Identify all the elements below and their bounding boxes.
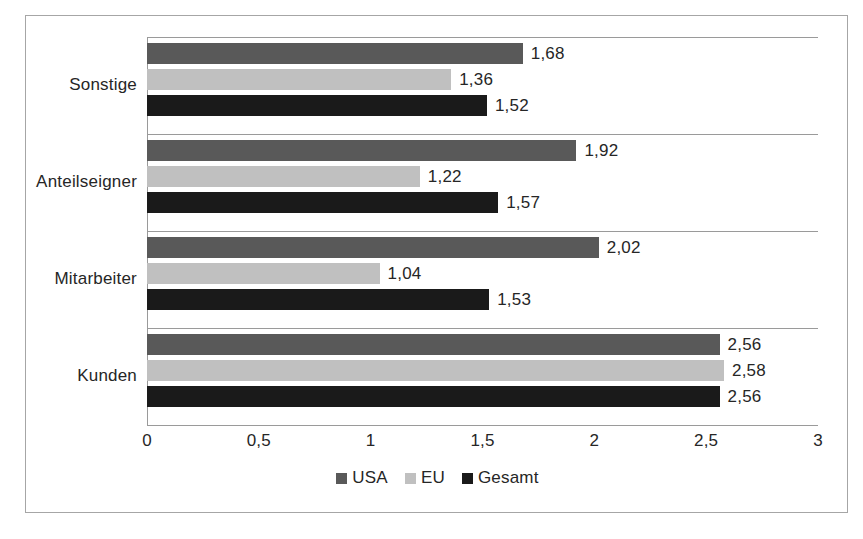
category-axis-labels: SonstigeAnteilseignerMitarbeiterKunden bbox=[26, 37, 137, 425]
bar-row: 2,02 bbox=[147, 237, 818, 258]
bar-row: 1,68 bbox=[147, 43, 818, 64]
bar-value-label: 2,02 bbox=[607, 238, 641, 258]
bar-value-label: 2,56 bbox=[728, 387, 762, 407]
value-axis-tick-labels: 00,511,522,53 bbox=[147, 431, 818, 457]
x-tick-label: 0 bbox=[142, 431, 152, 451]
group-separator-line bbox=[147, 425, 818, 426]
category-label-mitarbeiter: Mitarbeiter bbox=[54, 269, 137, 289]
plot-area: 1,681,361,521,921,221,572,021,041,532,56… bbox=[147, 37, 818, 425]
bar-value-label: 1,57 bbox=[506, 193, 540, 213]
group-separator-line bbox=[147, 231, 818, 232]
chart-frame: SonstigeAnteilseignerMitarbeiterKunden 1… bbox=[25, 15, 848, 513]
bar-row: 1,36 bbox=[147, 69, 818, 90]
chart-legend: USAEUGesamt bbox=[26, 468, 849, 488]
x-tick-label: 1,5 bbox=[470, 431, 494, 451]
legend-swatch-icon bbox=[405, 473, 416, 484]
legend-swatch-icon bbox=[462, 473, 473, 484]
x-tick-label: 0,5 bbox=[247, 431, 271, 451]
group-separator-line bbox=[147, 328, 818, 329]
bar-value-label: 1,53 bbox=[497, 290, 531, 310]
bar-row: 2,56 bbox=[147, 386, 818, 407]
bar-value-label: 1,92 bbox=[584, 141, 618, 161]
legend-label: EU bbox=[421, 468, 445, 488]
bar-row: 1,04 bbox=[147, 263, 818, 284]
bar-row: 2,56 bbox=[147, 334, 818, 355]
bar-anteilseigner-usa[interactable] bbox=[147, 140, 576, 161]
legend-swatch-icon bbox=[336, 473, 347, 484]
legend-item-eu[interactable]: EU bbox=[405, 468, 445, 488]
bar-anteilseigner-eu[interactable] bbox=[147, 166, 420, 187]
bar-value-label: 1,04 bbox=[388, 264, 422, 284]
category-label-kunden: Kunden bbox=[77, 366, 137, 386]
legend-item-usa[interactable]: USA bbox=[336, 468, 388, 488]
bar-value-label: 1,68 bbox=[531, 44, 565, 64]
chart-screenshot: SonstigeAnteilseignerMitarbeiterKunden 1… bbox=[0, 0, 863, 539]
x-tick-label: 3 bbox=[813, 431, 823, 451]
group-separator-line bbox=[147, 134, 818, 135]
bar-row: 1,52 bbox=[147, 95, 818, 116]
bar-row: 1,22 bbox=[147, 166, 818, 187]
legend-label: Gesamt bbox=[478, 468, 539, 488]
bar-value-label: 1,36 bbox=[459, 70, 493, 90]
legend-item-gesamt[interactable]: Gesamt bbox=[462, 468, 539, 488]
bar-value-label: 2,56 bbox=[728, 335, 762, 355]
bar-mitarbeiter-eu[interactable] bbox=[147, 263, 380, 284]
bar-anteilseigner-gesamt[interactable] bbox=[147, 192, 498, 213]
bar-kunden-gesamt[interactable] bbox=[147, 386, 720, 407]
x-tick-label: 2 bbox=[590, 431, 600, 451]
bar-value-label: 1,22 bbox=[428, 167, 462, 187]
bar-value-label: 1,52 bbox=[495, 96, 529, 116]
bar-kunden-usa[interactable] bbox=[147, 334, 720, 355]
bar-value-label: 2,58 bbox=[732, 361, 766, 381]
x-tick-label: 2,5 bbox=[694, 431, 718, 451]
x-tick-label: 1 bbox=[366, 431, 376, 451]
legend-label: USA bbox=[352, 468, 388, 488]
bar-sonstige-eu[interactable] bbox=[147, 69, 451, 90]
bar-sonstige-gesamt[interactable] bbox=[147, 95, 487, 116]
category-label-anteilseigner: Anteilseigner bbox=[36, 172, 137, 192]
bar-sonstige-usa[interactable] bbox=[147, 43, 523, 64]
category-label-sonstige: Sonstige bbox=[69, 75, 137, 95]
bar-mitarbeiter-gesamt[interactable] bbox=[147, 289, 489, 310]
bar-row: 1,92 bbox=[147, 140, 818, 161]
bar-kunden-eu[interactable] bbox=[147, 360, 724, 381]
group-separator-line bbox=[147, 37, 818, 38]
bar-mitarbeiter-usa[interactable] bbox=[147, 237, 599, 258]
bar-row: 2,58 bbox=[147, 360, 818, 381]
bar-row: 1,53 bbox=[147, 289, 818, 310]
bar-row: 1,57 bbox=[147, 192, 818, 213]
